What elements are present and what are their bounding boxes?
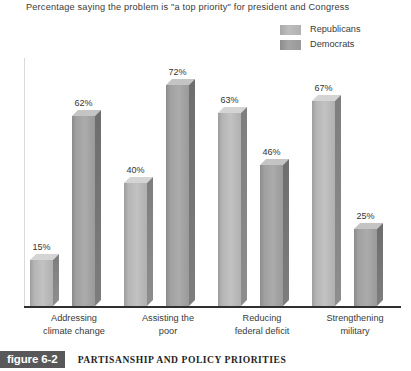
bar-value-label: 67% [312,83,335,93]
bar-value-label: 72% [166,67,189,77]
bar-republicans-strengthening-military: 67% [312,101,335,306]
bar-democrats-addressing-climate-change: 62% [72,116,95,306]
category-label-line-1: Strengthening [305,312,405,325]
bar-value-label: 46% [260,147,283,157]
bar-side-face [283,159,289,306]
bar-democrats-strengthening-military: 25% [354,229,377,306]
bar-group-reducing-federal-deficit: 63% 46% [218,60,306,306]
plot-left-edge [24,58,25,307]
bar-group-addressing-climate-change: 15% 62% [30,60,118,306]
category-label-assisting-the-poor: Assisting the poor [118,312,218,337]
bar-group-assisting-the-poor: 40% 72% [124,60,212,306]
legend-item-republicans: Republicans [280,22,400,37]
bar-republicans-reducing-federal-deficit: 63% [218,113,241,306]
bar-side-face [95,110,101,306]
bar-value-label: 62% [72,98,95,108]
bar-front-face [312,101,335,306]
category-label-addressing-climate-change: Addressing climate change [24,312,124,337]
bar-side-face [335,95,341,306]
legend-item-democrats: Democrats [280,37,400,52]
bar-side-face [53,254,59,306]
bar-value-label: 15% [30,242,53,252]
bar-side-face [189,79,195,306]
bar-front-face [30,260,53,306]
legend-swatch-republicans [280,25,301,35]
legend-swatch-democrats [280,40,301,50]
bar-front-face [124,183,147,306]
category-label-strengthening-military: Strengthening military [305,312,405,337]
category-label-line-2: federal deficit [212,325,312,338]
figure-number-badge: figure 6-2 [0,351,65,368]
bar-value-label: 63% [218,95,241,105]
category-label-line-1: Assisting the [118,312,218,325]
x-axis-baseline [24,306,401,308]
figure-caption-bar: figure 6-2 PARTISANSHIP AND POLICY PRIOR… [0,350,411,368]
legend-label-democrats: Democrats [310,39,354,50]
category-label-line-2: poor [118,325,218,338]
legend-label-republicans: Republicans [310,24,361,35]
figure-caption-text: PARTISANSHIP AND POLICY PRIORITIES [78,354,287,365]
chart-legend: Republicans Democrats [280,22,400,52]
bar-side-face [377,223,383,306]
bar-front-face [354,229,377,306]
chart-title: Percentage saying the problem is "a top … [26,1,391,13]
category-label-line-2: climate change [24,325,124,338]
category-label-reducing-federal-deficit: Reducing federal deficit [212,312,312,337]
bar-front-face [260,165,283,306]
bar-front-face [218,113,241,306]
bar-side-face [147,177,153,306]
bar-democrats-assisting-the-poor: 72% [166,85,189,306]
bar-value-label: 40% [124,165,147,175]
x-axis-category-labels: Addressing climate change Assisting the … [24,312,401,342]
bar-front-face [166,85,189,306]
plot-area: 15% 62% 40% 72% 63% [24,58,401,308]
category-label-line-1: Reducing [212,312,312,325]
category-label-line-1: Addressing [24,312,124,325]
bar-republicans-assisting-the-poor: 40% [124,183,147,306]
bar-side-face [241,107,247,306]
bar-front-face [72,116,95,306]
category-label-line-2: military [305,325,405,338]
bar-democrats-reducing-federal-deficit: 46% [260,165,283,306]
bar-republicans-addressing-climate-change: 15% [30,260,53,306]
bar-value-label: 25% [354,211,377,221]
bar-group-strengthening-military: 67% 25% [312,60,400,306]
